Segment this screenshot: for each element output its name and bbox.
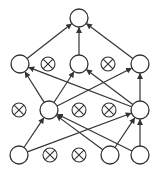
edge-h2-g3 [54, 72, 74, 103]
edge-h2-g5 [57, 68, 131, 106]
neuron-g5 [131, 55, 149, 73]
edge-h2-g1 [25, 72, 44, 102]
connections [24, 24, 140, 152]
edge-i4-h5 [115, 118, 135, 148]
neuron-h2 [40, 101, 58, 119]
dropped-neuron-h1 [12, 103, 26, 117]
neuron-g3 [70, 55, 88, 73]
neuron-i4 [101, 146, 119, 164]
edge-i5-h2 [58, 114, 132, 151]
neuron-i1 [10, 146, 28, 164]
neuron-i5 [131, 146, 149, 164]
edge-g5-o1 [87, 24, 133, 59]
edge-i1-h2 [24, 118, 44, 148]
dropped-neuron-g4 [101, 57, 115, 71]
dropped-neuron-i2 [43, 148, 57, 162]
neuron-g1 [11, 55, 29, 73]
dropped-neuron-h4 [102, 103, 116, 117]
edge-g1-o1 [27, 24, 71, 59]
dropped-neuron-g2 [41, 57, 55, 71]
neural-network-diagram [0, 0, 161, 175]
dropped-neuron-i3 [72, 148, 86, 162]
neuron-h5 [131, 101, 149, 119]
neuron-o1 [70, 9, 88, 27]
dropped-neuron-h3 [72, 103, 86, 117]
